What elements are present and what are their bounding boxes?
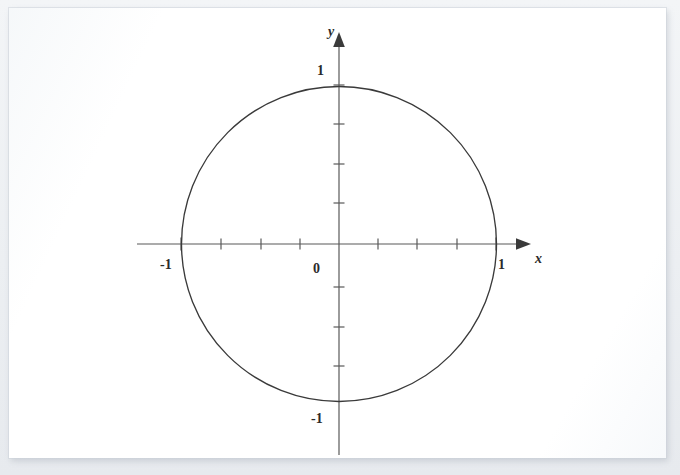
origin-label: 0 <box>313 262 320 276</box>
unit-circle-plot <box>0 0 680 475</box>
x-axis-arrowhead <box>516 238 531 250</box>
x-axis-label-1: 1 <box>498 258 505 272</box>
x-axis <box>137 238 531 250</box>
y-axis-name: y <box>328 25 334 39</box>
y-axis-arrowhead <box>333 32 345 47</box>
y-axis-label-minus-1: -1 <box>311 412 323 426</box>
y-axis-label-1: 1 <box>317 64 324 78</box>
figure-canvas: 1 -1 -1 0 1 x y <box>0 0 680 475</box>
x-axis-label-minus-1: -1 <box>160 258 172 272</box>
x-axis-name: x <box>535 252 542 266</box>
